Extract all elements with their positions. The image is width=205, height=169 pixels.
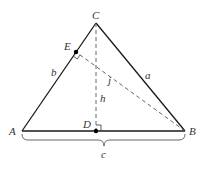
label-b-vertex: B xyxy=(189,125,196,137)
label-side-c: c xyxy=(101,148,106,160)
side-b xyxy=(22,23,96,131)
label-c-vertex: C xyxy=(92,9,100,21)
label-altitude-h: h xyxy=(100,92,106,104)
label-segment-j: j xyxy=(106,74,111,86)
brace-c xyxy=(22,134,185,146)
triangle-diagram: C A B E D b a c j h xyxy=(0,0,205,169)
diagram-svg: C A B E D b a c j h xyxy=(0,0,205,169)
point-d xyxy=(94,129,98,133)
label-side-a: a xyxy=(145,69,151,81)
point-e xyxy=(74,50,78,54)
label-a-vertex: A xyxy=(8,125,16,137)
label-d-point: D xyxy=(82,118,91,130)
label-e-point: E xyxy=(63,40,71,52)
label-side-b: b xyxy=(51,66,57,78)
